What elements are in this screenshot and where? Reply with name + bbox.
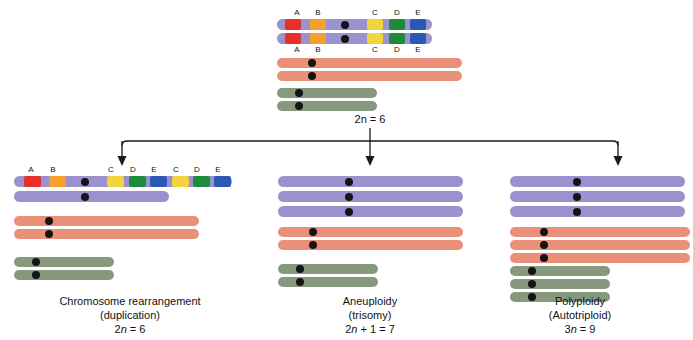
centromere-dot [296,278,304,286]
arrowhead-middle [366,156,375,166]
band-e-1 [150,176,167,187]
centromere-dot [32,271,40,279]
dup-purple-chromosome-1 [14,176,232,187]
ploidy-suffix: = 6 [127,323,146,335]
caption-line-1: Polyploidy [450,294,693,308]
dup-band-label-c2: C [169,165,183,174]
band-b [49,176,66,187]
centromere-dot [309,241,317,249]
centromere-dot [573,208,581,216]
band-d-1 [129,176,146,187]
centromere-dot [45,230,53,238]
arrowhead-right [614,156,623,166]
dup-band-label-a: A [24,165,38,174]
chromatid-body [510,240,690,250]
ane-purple-chromosome-2 [278,191,463,202]
ane-purple-chromosome-3 [278,206,463,217]
caption-ploidy: 3n = 9 [450,322,693,336]
dup-band-label-d2: D [190,165,204,174]
dup-band-label-b: B [46,165,60,174]
dup-salmon-chromosome-1 [14,216,199,226]
chromatid-body [510,176,685,187]
ploidy-suffix: = 9 [577,323,596,335]
caption-ploidy: 2n = 6 [0,322,260,336]
centromere-dot [540,228,548,236]
ane-green-chromosome-2 [278,277,378,287]
dup-purple-chromosome-2 [14,191,169,202]
centromere-dot [528,267,536,275]
caption-line-2: (duplication) [0,308,260,322]
poly-purple-chromosome-3 [510,206,685,217]
chromatid-body [14,229,199,239]
centromere-dot [540,241,548,249]
band-c-1 [107,176,124,187]
centromere-dot [573,178,581,186]
centromere-dot [528,280,536,288]
band-a [24,176,41,187]
ane-green-chromosome-1 [278,264,378,274]
chromatid-body [510,227,690,237]
chromatid-body [14,270,114,280]
dup-band-label-c1: C [104,165,118,174]
dup-green-chromosome-2 [14,270,114,280]
centromere-dot [296,265,304,273]
caption-line-2: (Autotriploid) [450,308,693,322]
chromatid-body [510,266,610,276]
chromatid-body [278,240,463,250]
band-c-2 [172,176,189,187]
poly-purple-chromosome-1 [510,176,685,187]
chromatid-body [14,257,114,267]
chromatid-body [278,264,378,274]
centromere-dot [45,217,53,225]
chromatid-body [510,191,685,202]
chromatid-body [278,191,463,202]
centromere-dot [540,254,548,262]
chromatid-body [278,227,463,237]
ane-purple-chromosome-1 [278,176,463,187]
dup-band-label-e1: E [147,165,161,174]
chromatid-body [278,277,378,287]
poly-green-chromosome-1 [510,266,610,276]
chromatid-body [510,279,610,289]
polyploidy-caption: Polyploidy (Autotriploid) 3n = 9 [450,294,693,336]
centromere-dot [32,258,40,266]
band-d-2 [193,176,210,187]
poly-salmon-chromosome-3 [510,253,690,263]
dup-band-label-d1: D [126,165,140,174]
ane-salmon-chromosome-2 [278,240,463,250]
poly-salmon-chromosome-2 [510,240,690,250]
poly-purple-chromosome-2 [510,191,685,202]
chromatid-body [510,253,690,263]
poly-salmon-chromosome-1 [510,227,690,237]
chromatid-body [14,216,199,226]
dup-salmon-chromosome-2 [14,229,199,239]
chromatid-body [510,206,685,217]
band-e-2 [214,176,231,187]
figure-canvas: A B C D E A B C D E [0,0,693,340]
chromatid-body [278,206,463,217]
ploidy-suffix: + 1 = 7 [357,323,394,335]
caption-line-1: Chromosome rearrangement [0,294,260,308]
centromere-dot [345,208,353,216]
centromere-dot [345,193,353,201]
duplication-caption: Chromosome rearrangement (duplication) 2… [0,294,260,336]
poly-green-chromosome-2 [510,279,610,289]
centromere-dot [81,193,89,201]
centromere-dot [573,193,581,201]
centromere-dot [81,178,89,186]
chromatid-body [14,191,169,202]
dup-green-chromosome-1 [14,257,114,267]
dup-band-label-e2: E [211,165,225,174]
chromatid-body [278,176,463,187]
centromere-dot [309,228,317,236]
ane-salmon-chromosome-1 [278,227,463,237]
centromere-dot [345,178,353,186]
